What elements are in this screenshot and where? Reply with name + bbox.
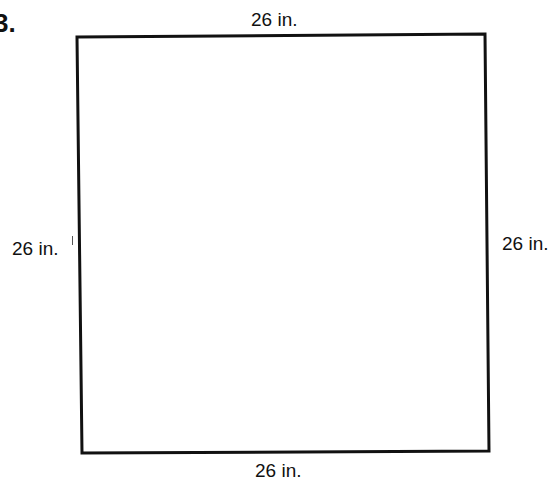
side-label-top: 26 in. bbox=[251, 10, 297, 29]
side-label-bottom: 26 in. bbox=[255, 461, 301, 480]
side-label-left: 26 in. bbox=[12, 239, 58, 258]
stray-tick-mark bbox=[72, 236, 73, 245]
square-outline bbox=[77, 34, 489, 453]
square-figure bbox=[0, 0, 560, 480]
side-label-right: 26 in. bbox=[502, 234, 548, 253]
